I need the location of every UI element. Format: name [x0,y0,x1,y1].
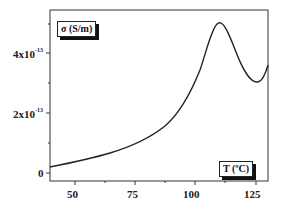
y-tick-2e-13: 2x10-13 [13,107,43,120]
x-axis-label-box: T (ºC) [219,161,253,177]
y-axis-label-box: σ (S/m) [57,21,96,37]
x-tick-125: 125 [244,188,261,200]
y-tick-0: 0 [38,167,44,179]
x-ticks [75,181,256,185]
y-tick-4e-13: 4x10-13 [13,47,43,60]
x-tick-75: 75 [127,188,139,200]
x-tick-100: 100 [183,188,200,200]
sigma-curve [50,23,268,167]
x-tick-50: 50 [67,188,79,200]
chart: 0 2x10-13 4x10-13 50 75 100 125 [0,0,284,209]
y-ticks [46,24,50,173]
